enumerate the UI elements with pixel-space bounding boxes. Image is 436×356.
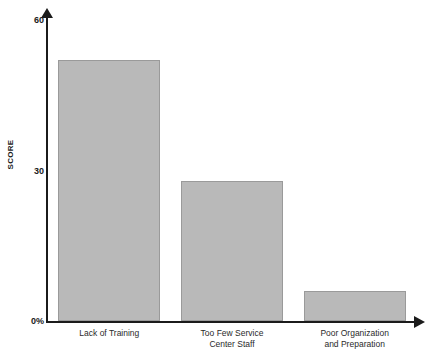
x-axis-line [46,321,416,323]
x-axis-category-label: Too Few Service Center Staff [171,328,294,350]
x-axis-category-label: Lack of Training [48,328,171,339]
plot-area [48,16,416,321]
y-axis-tick-labels: 0%3060 [0,0,44,356]
y-axis-tick-label: 0% [4,316,44,326]
y-axis-tick-label: 60 [4,15,44,25]
bar [304,291,406,321]
bar-chart: SCORE 0%3060 Lack of TrainingToo Few Ser… [0,0,436,356]
bar [181,181,283,321]
bar [58,60,160,321]
y-axis-tick-label: 30 [4,166,44,176]
x-axis-category-label: Poor Organization and Preparation [293,328,416,350]
